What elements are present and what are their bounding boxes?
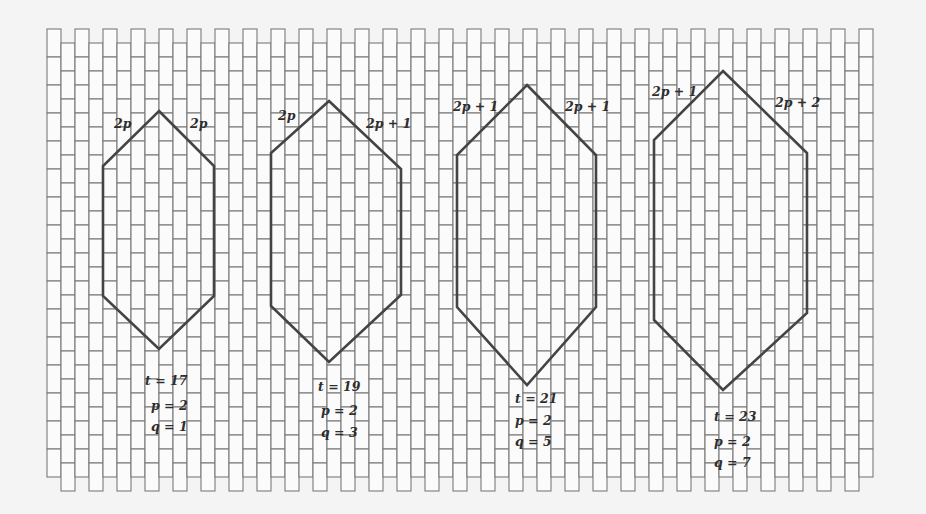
brick-cell (89, 71, 103, 99)
brick-cell (411, 197, 425, 225)
brick-cell (733, 267, 747, 295)
brick-cell (425, 463, 439, 491)
brick-cell (747, 225, 761, 253)
brick-cell (845, 323, 859, 351)
brick-cell (467, 29, 481, 57)
brick-cell (89, 435, 103, 463)
brick-cell (635, 337, 649, 365)
brick-cell (621, 267, 635, 295)
brick-cell (761, 463, 775, 491)
brick-cell (733, 323, 747, 351)
brick-cell (187, 393, 201, 421)
brick-cell (89, 407, 103, 435)
brick-cell (201, 407, 215, 435)
brick-cell (397, 43, 411, 71)
brick-cell (565, 463, 579, 491)
brick-cell (495, 225, 509, 253)
brick-cell (649, 407, 663, 435)
brick-cell (649, 351, 663, 379)
brick-cell (285, 155, 299, 183)
brick-cell (803, 113, 817, 141)
brick-cell (285, 435, 299, 463)
brick-cell (369, 183, 383, 211)
brick-cell (635, 113, 649, 141)
brick-cell (523, 29, 537, 57)
brick-cell (859, 393, 873, 421)
brick-cell (425, 351, 439, 379)
brick-cell (817, 463, 831, 491)
brick-cell (845, 127, 859, 155)
brick-cell (229, 435, 243, 463)
brick-cell (733, 211, 747, 239)
brick-cell (831, 29, 845, 57)
brick-cell (327, 57, 341, 85)
brick-cell (383, 197, 397, 225)
brick-cell (75, 365, 89, 393)
brick-cell (103, 449, 117, 477)
brick-cell (495, 421, 509, 449)
brick-cell (117, 351, 131, 379)
brick-cell (705, 99, 719, 127)
brick-cell (187, 253, 201, 281)
brick-cell (747, 141, 761, 169)
brick-cell (663, 113, 677, 141)
hex-2-param-label: p = 2 (321, 403, 358, 418)
brick-cell (341, 463, 355, 491)
brick-cell (215, 449, 229, 477)
brick-cell (327, 225, 341, 253)
brick-cell (537, 211, 551, 239)
brick-cell (425, 407, 439, 435)
brick-cell (593, 407, 607, 435)
brick-cell (663, 449, 677, 477)
brick-cell (495, 113, 509, 141)
hex-1-param-label: q = 1 (151, 419, 188, 434)
brick-cell (719, 113, 733, 141)
brick-cell (439, 113, 453, 141)
brick-cell (425, 155, 439, 183)
brick-cell (677, 183, 691, 211)
brick-cell (299, 281, 313, 309)
brick-cell (327, 113, 341, 141)
brick-cell (719, 337, 733, 365)
brick-cell (271, 421, 285, 449)
brick-cell (635, 141, 649, 169)
brick-cell (271, 393, 285, 421)
brick-cell (831, 309, 845, 337)
brick-cell (145, 463, 159, 491)
brick-cell (61, 71, 75, 99)
brick-cell (831, 57, 845, 85)
brick-cell (425, 71, 439, 99)
brick-cell (215, 85, 229, 113)
brick-cell (257, 71, 271, 99)
brick-cell (285, 239, 299, 267)
hex-1-param-label: t = 17 (145, 373, 188, 388)
brick-cell (131, 365, 145, 393)
brick-cell (691, 449, 705, 477)
brick-cell (397, 71, 411, 99)
brick-cell (285, 379, 299, 407)
brick-cell (341, 295, 355, 323)
brick-cell (439, 309, 453, 337)
brick-cell (747, 29, 761, 57)
brick-cell (789, 43, 803, 71)
brick-cell (313, 211, 327, 239)
brick-cell (61, 323, 75, 351)
brick-cell (47, 365, 61, 393)
brick-cell (103, 253, 117, 281)
brick-cell (159, 281, 173, 309)
brick-cell (215, 393, 229, 421)
brick-cell (565, 43, 579, 71)
brick-cell (425, 211, 439, 239)
brick-cell (355, 141, 369, 169)
brick-cell (453, 351, 467, 379)
brick-cell (439, 337, 453, 365)
brick-cell (285, 295, 299, 323)
brick-cell (691, 57, 705, 85)
brick-cell (761, 351, 775, 379)
brick-cell (565, 155, 579, 183)
brick-cell (229, 295, 243, 323)
brick-cell (215, 281, 229, 309)
brick-cell (803, 253, 817, 281)
brick-cell (719, 309, 733, 337)
brick-cell (775, 169, 789, 197)
